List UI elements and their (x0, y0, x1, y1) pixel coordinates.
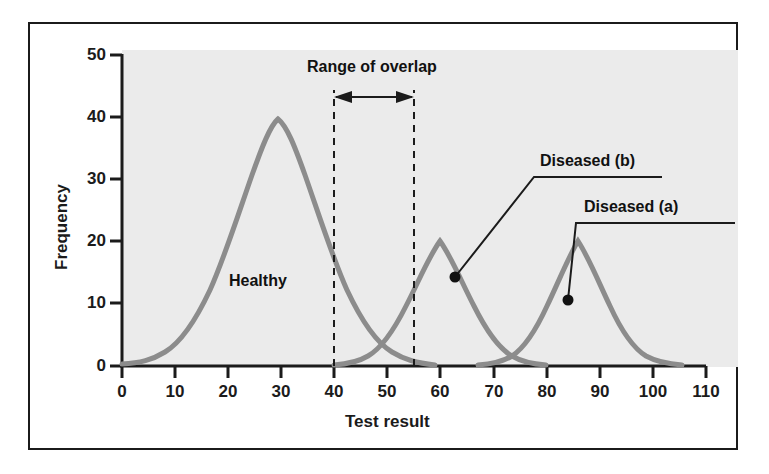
annotation-range-of-overlap: Range of overlap (307, 58, 437, 76)
x-tick-label-50: 50 (372, 382, 402, 402)
x-tick-label-0: 0 (107, 382, 137, 402)
x-tick-label-110: 110 (687, 382, 725, 402)
x-tick-label-40: 40 (319, 382, 349, 402)
y-tick-label-10: 10 (78, 293, 106, 313)
y-tick-label-0: 0 (78, 356, 106, 376)
x-tick-label-70: 70 (479, 382, 509, 402)
y-tick-label-20: 20 (78, 231, 106, 251)
x-tick-label-80: 80 (532, 382, 562, 402)
x-tick-label-20: 20 (213, 382, 243, 402)
annotation-healthy: Healthy (229, 272, 287, 290)
x-axis-ticks (122, 366, 706, 378)
annotation-diseased-a: Diseased (a) (584, 198, 678, 216)
x-axis-title: Test result (345, 412, 430, 432)
y-tick-label-30: 30 (78, 169, 106, 189)
y-tick-label-40: 40 (78, 107, 106, 127)
x-tick-label-100: 100 (634, 382, 672, 402)
leader-dot-diseased-b (450, 272, 461, 283)
y-axis-title: Frequency (52, 184, 72, 270)
annotation-diseased-b: Diseased (b) (540, 152, 635, 170)
x-tick-label-60: 60 (425, 382, 455, 402)
y-tick-label-50: 50 (78, 45, 106, 65)
x-tick-label-30: 30 (266, 382, 296, 402)
x-tick-label-90: 90 (585, 382, 615, 402)
y-axis-ticks (110, 55, 122, 366)
figure-canvas: 50 40 30 20 10 0 0 10 20 30 40 50 60 70 … (0, 0, 769, 474)
leader-dot-diseased-a (563, 295, 574, 306)
x-tick-label-10: 10 (160, 382, 190, 402)
